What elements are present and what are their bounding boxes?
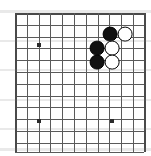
grid-line-horizontal-10 — [15, 131, 144, 132]
grid-line-vertical-5 — [74, 13, 75, 152]
grid-line-horizontal-8 — [15, 107, 144, 108]
stone-black-3[interactable] — [90, 55, 105, 70]
scan-artifact-band-5 — [0, 148, 151, 151]
grid-line-vertical-6 — [86, 13, 87, 152]
stone-white-3[interactable] — [105, 55, 120, 70]
grid-line-vertical-0 — [15, 13, 17, 152]
grid-line-horizontal-3 — [15, 48, 144, 49]
grid-line-horizontal-9 — [15, 119, 144, 120]
grid-line-horizontal-6 — [15, 84, 144, 85]
go-board-surface — [0, 0, 151, 156]
grid-line-horizontal-5 — [15, 72, 144, 73]
stone-white-2[interactable] — [105, 41, 120, 56]
grid-line-vertical-3 — [50, 13, 51, 152]
grid-line-horizontal-7 — [15, 96, 144, 97]
grid-line-vertical-4 — [62, 13, 63, 152]
grid-line-horizontal-11 — [15, 143, 144, 144]
star-point-lower-right — [110, 119, 114, 123]
scan-artifact-band-3 — [0, 99, 151, 101]
go-board-diagram — [0, 0, 151, 156]
stone-black-2[interactable] — [90, 41, 105, 56]
stone-black-1[interactable] — [103, 27, 118, 42]
scan-artifact-band-2 — [0, 69, 151, 71]
grid-line-horizontal-0 — [15, 13, 144, 15]
grid-line-horizontal-4 — [15, 60, 144, 61]
grid-line-vertical-2 — [39, 13, 40, 152]
star-point-upper-left — [37, 43, 41, 47]
grid-line-vertical-10 — [133, 13, 134, 152]
grid-line-vertical-11 — [144, 13, 146, 152]
grid-line-horizontal-12 — [15, 152, 144, 153]
grid-line-vertical-7 — [98, 13, 99, 152]
scan-artifact-band-4 — [0, 128, 151, 130]
star-point-lower-left — [37, 119, 41, 123]
grid-line-vertical-1 — [27, 13, 28, 152]
stone-white-1[interactable] — [118, 27, 133, 42]
